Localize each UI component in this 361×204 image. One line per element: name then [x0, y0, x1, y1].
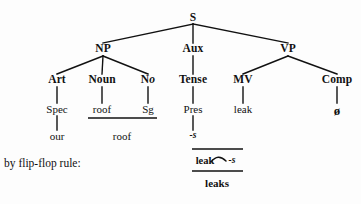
- edge-vp-mv: [243, 56, 288, 74]
- flip-flop-input-stem: leak: [196, 156, 215, 167]
- node-mv: MV: [233, 74, 252, 86]
- edge-np-number: [103, 56, 148, 74]
- terminal-leak: leak: [234, 104, 252, 115]
- flip-flop-rule-label: by flip-flop rule:: [4, 158, 81, 170]
- flip-flop-input-suffix: -s: [229, 156, 236, 166]
- node-np: NP: [95, 43, 111, 55]
- terminal-sg: Sg: [142, 104, 154, 115]
- edge-np-art: [57, 56, 103, 74]
- edge-s-np: [103, 24, 193, 43]
- terminal-spec: Spec: [46, 104, 67, 115]
- terminal-roof-lower: roof: [113, 131, 131, 142]
- edge-s-vp: [193, 24, 288, 43]
- syntax-tree-diagram: S NP Aux VP Art Noun No Tense MV Comp Sp…: [0, 0, 361, 204]
- terminal-null-symbol: ø: [334, 104, 341, 117]
- node-comp: Comp: [322, 74, 352, 86]
- node-noun: Noun: [88, 74, 115, 86]
- node-number: No: [141, 74, 155, 86]
- node-s: S: [190, 12, 197, 24]
- node-tense: Tense: [179, 74, 207, 86]
- flip-flop-output: leaks: [205, 178, 229, 189]
- edge-vp-comp: [288, 56, 337, 74]
- node-vp: VP: [280, 43, 296, 55]
- terminal-suffix-s: -s: [190, 131, 197, 141]
- terminal-our: our: [50, 131, 65, 142]
- node-number-superscript: o: [149, 73, 155, 85]
- terminal-roof-upper: roof: [93, 104, 111, 115]
- node-aux: Aux: [183, 43, 204, 55]
- node-art: Art: [48, 74, 66, 86]
- terminal-pres: Pres: [184, 104, 203, 115]
- edge-np-noun: [102, 56, 103, 74]
